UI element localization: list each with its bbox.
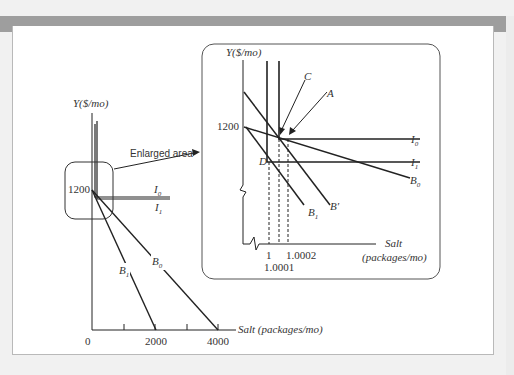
main-x-axis-label: Salt (packages/mo) [238, 323, 323, 336]
economics-diagram: Y($/mo) 1200 Enlarged area I0 I1 B1 B0 0… [0, 0, 514, 375]
main-y-axis-label: Y($/mo) [73, 97, 109, 110]
point-label-D: D [258, 155, 267, 167]
enlarged-x-tick-1.0002: 1.0002 [286, 249, 316, 261]
enlarged-x-axis-label-line1: Salt [385, 237, 403, 249]
enlarged-area-label: Enlarged area [130, 148, 193, 159]
enlarged-x-tick-1: 1 [266, 249, 272, 261]
point-label-C: C [304, 70, 312, 82]
main-label-I1: I1 [154, 201, 162, 216]
main-label-I0: I0 [153, 183, 162, 198]
enlarged-y-axis-label: Y($/mo) [226, 46, 262, 59]
point-label-A: A [326, 87, 334, 99]
main-x-tick-4000: 4000 [207, 335, 230, 347]
main-x-tick-0: 0 [85, 335, 91, 347]
enlarged-y-tick-1200: 1200 [217, 120, 240, 132]
main-x-tick-2000: 2000 [145, 335, 168, 347]
main-budget-B1 [92, 190, 156, 330]
enlarged-x-tick-1.0001: 1.0001 [264, 261, 294, 273]
main-y-tick-1200: 1200 [68, 183, 91, 195]
enlarged-x-axis-label-line2: (packages/mo) [362, 251, 427, 264]
enlarged-label-Bprime: B′ [330, 200, 340, 212]
